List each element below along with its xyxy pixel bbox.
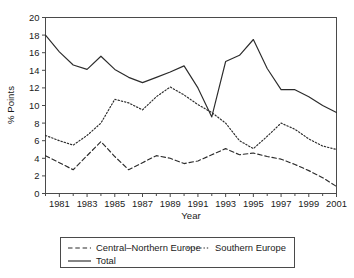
x-tick-label: 1989 — [160, 198, 181, 209]
x-tick-label: 1993 — [215, 198, 236, 209]
x-tick-label: 2001 — [326, 198, 347, 209]
x-tick-label: 1999 — [298, 198, 319, 209]
legend-label: Central–Northern Europe — [96, 242, 201, 253]
chart-figure: 02468101214161820 1981198319851987198919… — [0, 0, 354, 278]
x-tick-label: 1991 — [187, 198, 208, 209]
y-tick-label: 4 — [34, 153, 39, 164]
y-tick-label: 6 — [34, 135, 39, 146]
x-tick-label: 1983 — [77, 198, 98, 209]
chart-background — [0, 0, 354, 278]
line-chart: 02468101214161820 1981198319851987198919… — [0, 0, 354, 278]
x-tick-label: 1997 — [271, 198, 292, 209]
x-tick-label: 1987 — [132, 198, 153, 209]
y-tick-label: 18 — [29, 30, 39, 41]
legend-label: Total — [96, 255, 116, 266]
x-axis-tick-labels: 1981198319851987198919911993199519971999… — [49, 198, 347, 209]
y-tick-label: 20 — [29, 12, 39, 23]
y-axis-title: % Points — [5, 86, 16, 124]
x-tick-label: 1985 — [104, 198, 125, 209]
y-tick-label: 2 — [34, 170, 39, 181]
x-tick-label: 1995 — [243, 198, 264, 209]
x-axis-title: Year — [181, 210, 201, 221]
y-tick-label: 12 — [29, 82, 39, 93]
y-tick-label: 8 — [34, 118, 39, 129]
legend-label: Southern Europe — [215, 242, 286, 253]
x-tick-label: 1981 — [49, 198, 70, 209]
y-tick-label: 10 — [29, 100, 39, 111]
y-tick-label: 0 — [34, 188, 39, 199]
y-tick-label: 16 — [29, 47, 39, 58]
y-tick-label: 14 — [29, 65, 39, 76]
